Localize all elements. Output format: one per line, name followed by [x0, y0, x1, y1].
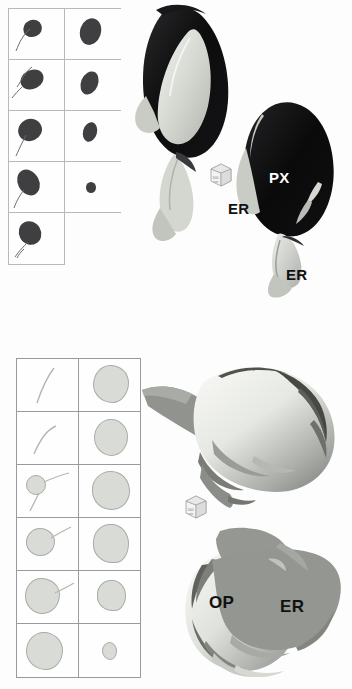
scale-cube: 500 nm: [205, 160, 235, 190]
light-blob: [93, 365, 129, 403]
tubule-tail: [11, 188, 31, 211]
gallery-cell[interactable]: [65, 162, 121, 213]
tubule-tail: [17, 571, 79, 624]
light-blob-notched: [93, 524, 129, 563]
label-er-bottom: ER: [280, 598, 304, 615]
dark-blob: [77, 69, 102, 98]
tubule-tail: [12, 239, 34, 261]
render-oleosome-er: [172, 523, 350, 685]
svg-text:nm: nm: [189, 512, 194, 516]
dark-blob-small: [86, 182, 96, 193]
gallery-cell[interactable]: [79, 518, 141, 571]
svg-text:nm: nm: [214, 180, 219, 184]
gallery-cell[interactable]: [9, 60, 65, 111]
gallery-cell[interactable]: [65, 111, 121, 162]
gallery-cell[interactable]: [79, 359, 141, 412]
gallery-cell[interactable]: [17, 518, 79, 571]
gallery-cell[interactable]: [17, 624, 79, 678]
figure-canvas: PX ER ER 500 nm: [0, 0, 352, 689]
label-er-lower: ER: [286, 267, 307, 282]
gallery-cell-empty: [65, 213, 121, 265]
gallery-cell[interactable]: [65, 60, 121, 111]
gallery-cell[interactable]: [9, 111, 65, 162]
gallery-cell[interactable]: [79, 571, 141, 624]
gallery-cell[interactable]: [79, 412, 141, 465]
serial-section-gallery-top: [8, 8, 121, 265]
tubule-tail: [17, 518, 79, 571]
panel-bottom: OP ER 500 nm: [0, 345, 352, 689]
gallery-cell[interactable]: [17, 571, 79, 624]
panel-top: PX ER ER 500 nm: [0, 0, 352, 345]
scale-cube: 500 nm: [180, 492, 210, 522]
gallery-cell[interactable]: [9, 213, 65, 265]
label-op: OP: [209, 594, 234, 611]
gallery-cell[interactable]: [79, 624, 141, 678]
label-er-upper: ER: [228, 201, 249, 216]
gallery-cell[interactable]: [79, 465, 141, 518]
dark-blob: [81, 121, 100, 144]
light-blob: [94, 419, 128, 456]
tubule-tail: [10, 66, 34, 100]
render-oil-body-light: [142, 360, 350, 510]
gallery-cell[interactable]: [9, 162, 65, 213]
gallery-cell[interactable]: [65, 9, 121, 60]
tubule-tail: [12, 133, 32, 159]
light-blob-large: [26, 632, 63, 670]
gallery-cell[interactable]: [17, 412, 79, 465]
light-blob-notched: [97, 580, 126, 611]
label-px: PX: [269, 170, 290, 185]
light-blob: [92, 471, 130, 510]
serial-section-gallery-bottom: [16, 358, 141, 678]
gallery-cell[interactable]: [9, 9, 65, 60]
gallery-cell[interactable]: [17, 359, 79, 412]
thin-tubule: [17, 412, 79, 465]
light-blob-tiny: [102, 642, 117, 660]
tubule-tail: [11, 27, 31, 53]
dark-blob: [76, 15, 104, 47]
gallery-cell[interactable]: [17, 465, 79, 518]
thin-tubule: [17, 359, 79, 412]
tubule-tail: [17, 465, 79, 518]
